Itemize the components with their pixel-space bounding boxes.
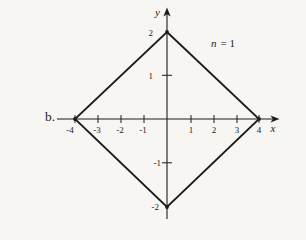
x-tick-label: 3 <box>235 125 240 135</box>
x-tick-labels: -4 -3 -2 -1 1 2 3 4 <box>66 125 262 135</box>
x-tick-label: -3 <box>93 125 101 135</box>
figure-canvas: -4 -3 -2 -1 1 2 3 4 2 1 -1 -2 y x n= 1 b… <box>0 0 306 240</box>
vertex-dot-left <box>73 117 77 121</box>
x-tick-label: 2 <box>212 125 217 135</box>
y-tick-label: 2 <box>149 28 154 38</box>
x-tick-label: -1 <box>139 125 147 135</box>
y-axis-label: y <box>154 6 160 18</box>
curve-annotation: n= 1 <box>211 37 235 49</box>
item-label: b. <box>45 109 55 124</box>
y-tick-label: -2 <box>152 202 160 212</box>
textbook-figure: -4 -3 -2 -1 1 2 3 4 2 1 -1 -2 y x n= 1 b… <box>0 0 306 240</box>
x-tick-label: -2 <box>116 125 124 135</box>
x-tick-label: 4 <box>257 125 262 135</box>
y-tick-label: 1 <box>149 71 154 81</box>
vertex-dot-bottom <box>165 205 169 209</box>
y-tick-label: -1 <box>154 158 162 168</box>
x-tick-label: 1 <box>189 125 194 135</box>
vertex-dot-top <box>165 30 169 34</box>
curve-annotation-rest: = 1 <box>221 37 235 49</box>
x-tick-label: -4 <box>66 125 74 135</box>
vertex-dot-right <box>257 117 261 121</box>
curve-annotation-var: n <box>211 37 217 49</box>
y-tick-labels: 2 1 -1 -2 <box>149 28 162 212</box>
x-axis-label: x <box>270 122 276 134</box>
